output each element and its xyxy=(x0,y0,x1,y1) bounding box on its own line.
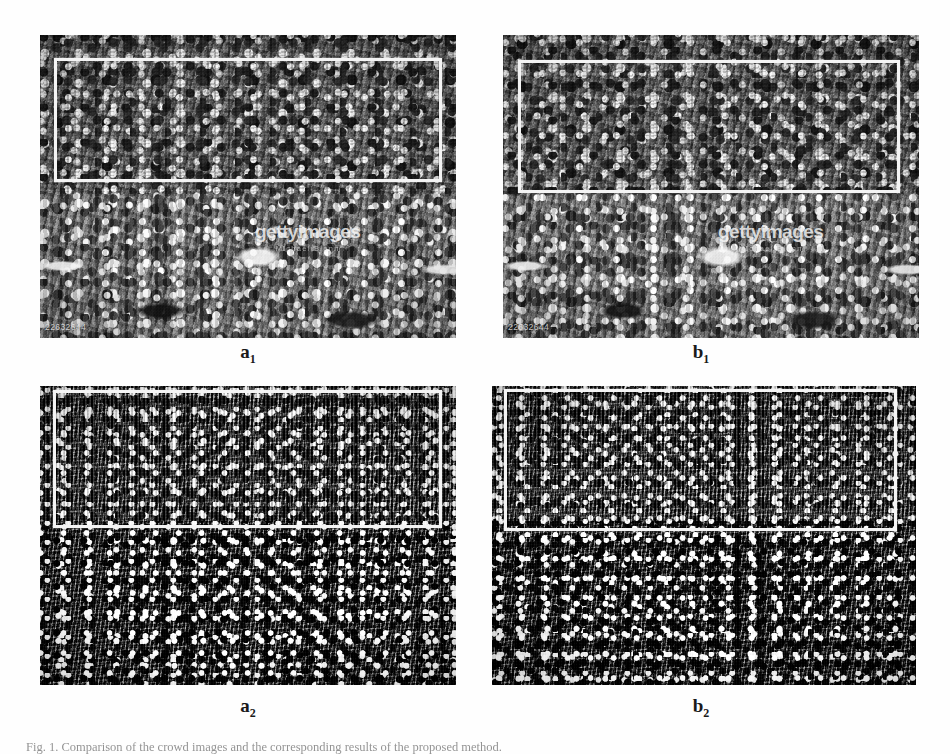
panel-label-b1: b1 xyxy=(671,341,731,367)
figure-caption: Fig. 1. Comparison of the crowd images a… xyxy=(26,740,924,754)
panel-label-a1: a1 xyxy=(218,341,278,367)
panel-label-subscript: 1 xyxy=(250,352,256,366)
panel-a2 xyxy=(40,386,456,685)
roi-rectangle-a1 xyxy=(54,58,442,182)
panel-label-letter: a xyxy=(240,695,250,716)
roi-rectangle-b2 xyxy=(504,389,897,531)
panel-a1: gettyimages Michael Blann 22632644 xyxy=(40,35,456,338)
panel-label-letter: a xyxy=(240,341,250,362)
panel-label-subscript: 1 xyxy=(703,352,709,366)
panel-label-b2: b2 xyxy=(671,695,731,721)
panel-label-a2: a2 xyxy=(218,695,278,721)
panel-label-subscript: 2 xyxy=(250,706,256,720)
panel-b2 xyxy=(492,386,916,685)
roi-rectangle-a2 xyxy=(53,390,442,528)
panel-label-subscript: 2 xyxy=(703,706,709,720)
panel-label-letter: b xyxy=(693,341,704,362)
panel-label-letter: b xyxy=(693,695,704,716)
panel-b1: gettyimages Michael Blann 22632644 xyxy=(503,35,919,338)
figure-sheet: gettyimages Michael Blann 22632644 a1 ge… xyxy=(0,0,950,754)
roi-rectangle-b1 xyxy=(518,60,900,193)
